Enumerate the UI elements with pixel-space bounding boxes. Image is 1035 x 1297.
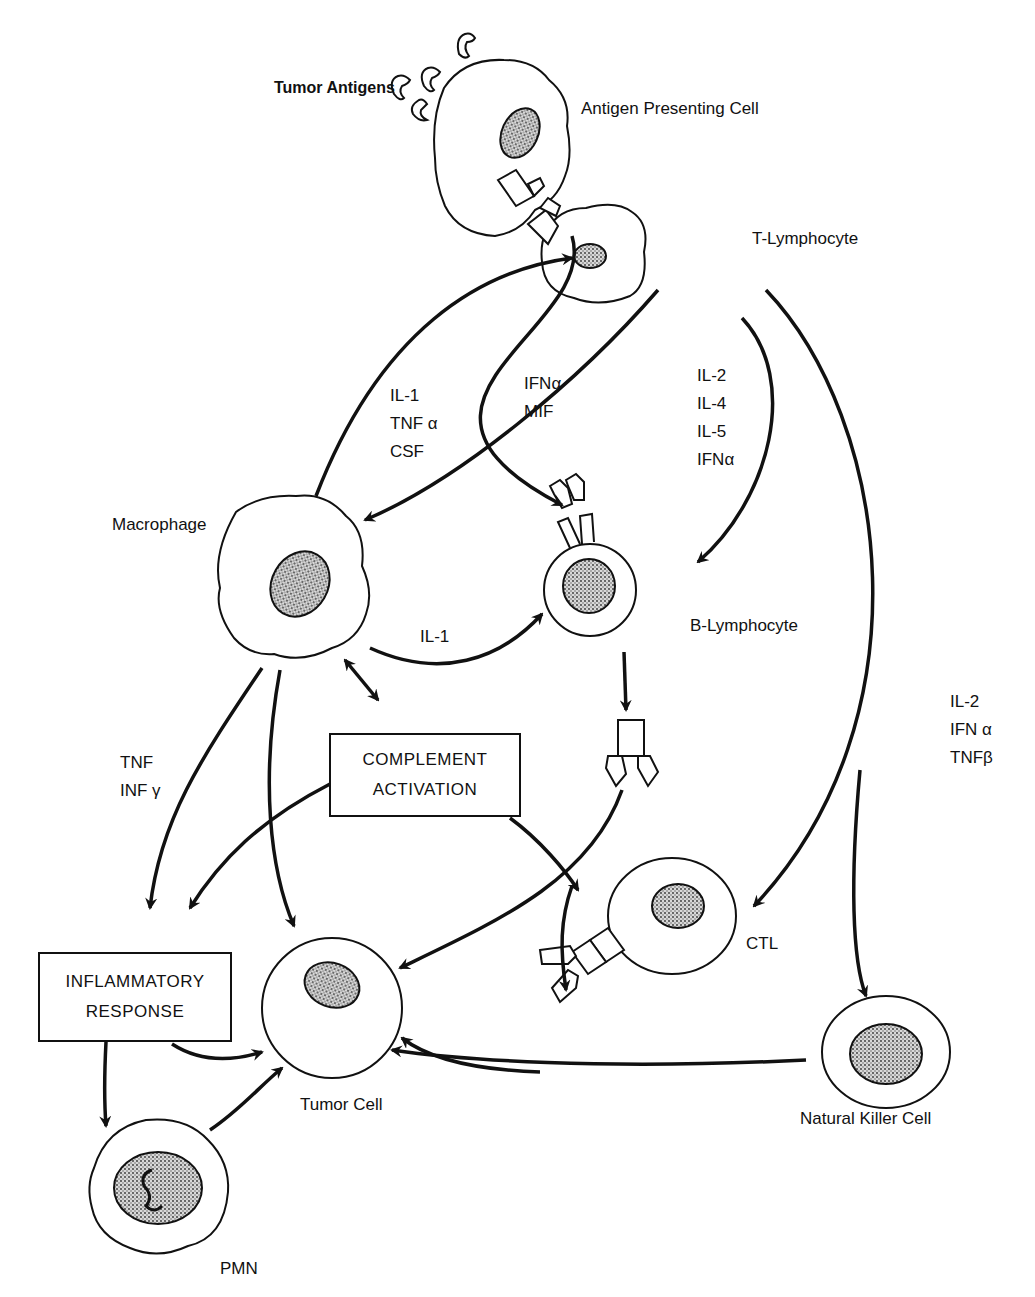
label-pmn: PMN [220,1260,258,1277]
antibody-shape [606,720,658,786]
cytokine: INF γ [120,777,161,805]
cytokine: IL-4 [697,390,734,418]
cytokine: IL-5 [697,418,734,446]
cytokines-t-to-macrophage: IFNα MIF [524,370,561,426]
cytokine: IL-1 [390,382,438,410]
cytokines-t-to-ctl-nk: IL-2 IFN α TNFβ [950,688,993,772]
cytokine: IFNα [697,446,734,474]
label-natural-killer-cell: Natural Killer Cell [800,1110,931,1127]
box-text: RESPONSE [86,997,184,1027]
cytokines-macrophage-to-t: IL-1 TNF α CSF [390,382,438,466]
b-lymphocyte-shape [544,474,636,636]
diagram-canvas [0,0,1035,1297]
label-antigen-presenting-cell: Antigen Presenting Cell [581,100,759,117]
cytokine: IL-2 [950,688,993,716]
box-text: INFLAMMATORY [65,967,204,997]
cytokines-t-to-b: IL-2 IL-4 IL-5 IFNα [697,362,734,474]
cytokine: IFN α [950,716,993,744]
macrophage-shape [218,495,369,657]
box-text: ACTIVATION [373,775,478,805]
nk-cell-shape [822,996,950,1108]
cytokines-macrophage-to-b: IL-1 [420,628,449,645]
label-t-lymphocyte: T-Lymphocyte [752,230,858,247]
cytokine: MIF [524,398,561,426]
label-tumor-antigens: Tumor Antigens [274,80,395,96]
tumor-cell-shape [262,938,402,1078]
box-text: COMPLEMENT [363,745,488,775]
cytokine: CSF [390,438,438,466]
label-tumor-cell: Tumor Cell [300,1096,383,1113]
cytokine: TNFβ [950,744,993,772]
label-b-lymphocyte: B-Lymphocyte [690,617,798,634]
complement-activation-box: COMPLEMENT ACTIVATION [329,733,521,817]
inflammatory-response-box: INFLAMMATORY RESPONSE [38,952,232,1042]
cytokine: IFNα [524,370,561,398]
cytokine: TNF α [390,410,438,438]
t-lymphocyte-shape [528,198,646,303]
cytokines-macrophage-to-inflammatory: TNF INF γ [120,749,161,805]
pmn-shape [89,1119,228,1253]
cytokine: IL-2 [697,362,734,390]
label-macrophage: Macrophage [112,516,207,533]
label-ctl: CTL [746,935,778,952]
cytokine: TNF [120,749,161,777]
